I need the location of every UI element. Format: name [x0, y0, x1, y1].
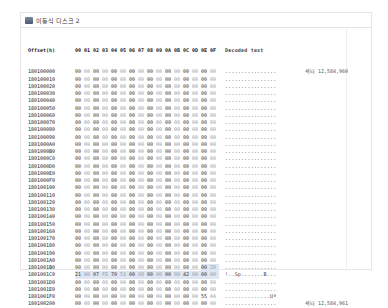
hex-byte[interactable]: 00 — [93, 141, 102, 148]
hex-byte[interactable]: 07 — [93, 271, 102, 278]
hex-byte[interactable]: 00 — [93, 300, 102, 307]
hex-byte[interactable]: 00 — [84, 221, 93, 228]
hex-byte[interactable]: 00 — [147, 148, 156, 155]
hex-byte[interactable]: 00 — [111, 264, 120, 271]
hex-byte[interactable]: 00 — [192, 300, 201, 307]
hex-byte[interactable]: 00 — [165, 83, 174, 90]
hex-byte[interactable]: 00 — [156, 112, 165, 119]
hex-byte[interactable]: 00 — [201, 126, 210, 133]
hex-byte[interactable]: 00 — [183, 155, 192, 162]
hex-byte[interactable]: 00 — [192, 257, 201, 264]
hex-byte[interactable]: 00 — [120, 134, 129, 141]
hex-byte[interactable]: 00 — [84, 271, 93, 278]
hex-row[interactable]: 1801001F0000000000000000000000000000055A… — [28, 293, 348, 300]
hex-byte[interactable]: 00 — [183, 250, 192, 257]
hex-byte[interactable]: 00 — [183, 242, 192, 249]
hex-byte[interactable]: 00 — [165, 221, 174, 228]
hex-byte[interactable]: 00 — [102, 184, 111, 191]
hex-byte[interactable]: 00 — [120, 300, 129, 307]
hex-byte[interactable]: 00 — [138, 300, 147, 307]
hex-byte[interactable]: 00 — [102, 206, 111, 213]
hex-byte[interactable]: 00 — [93, 199, 102, 206]
hex-byte[interactable]: 00 — [120, 293, 129, 300]
hex-row[interactable]: 1801000300000000000000000000000000000000… — [28, 90, 348, 97]
hex-byte[interactable]: 00 — [111, 184, 120, 191]
hex-byte[interactable]: 00 — [210, 76, 219, 83]
hex-byte[interactable]: 00 — [84, 199, 93, 206]
hex-byte[interactable]: 00 — [75, 141, 84, 148]
hex-byte[interactable]: 00 — [84, 90, 93, 97]
hex-byte[interactable]: 00 — [147, 155, 156, 162]
hex-byte[interactable]: 00 — [84, 206, 93, 213]
hex-byte[interactable]: 00 — [192, 213, 201, 220]
hex-byte[interactable]: 00 — [174, 257, 183, 264]
hex-byte[interactable]: 00 — [75, 228, 84, 235]
hex-byte[interactable]: 00 — [138, 68, 147, 75]
hex-byte[interactable]: 00 — [129, 134, 138, 141]
hex-byte[interactable]: 00 — [93, 112, 102, 119]
decoded-text[interactable]: ................ — [225, 199, 293, 206]
hex-byte[interactable]: 00 — [75, 184, 84, 191]
hex-byte[interactable]: 00 — [192, 119, 201, 126]
hex-byte[interactable]: 00 — [120, 242, 129, 249]
hex-byte[interactable]: 00 — [174, 148, 183, 155]
hex-row[interactable]: 1801001200000000000000000000000000000000… — [28, 199, 348, 206]
hex-byte[interactable]: 00 — [201, 300, 210, 307]
hex-byte[interactable]: 00 — [165, 119, 174, 126]
hex-byte[interactable]: 00 — [201, 242, 210, 249]
hex-row[interactable]: 1801001D00000000000000000000000000000000… — [28, 279, 348, 286]
decoded-text[interactable]: ................ — [225, 279, 293, 286]
hex-byte[interactable]: 00 — [192, 141, 201, 148]
hex-byte[interactable]: 00 — [174, 83, 183, 90]
hex-byte[interactable]: 00 — [120, 68, 129, 75]
hex-row[interactable]: 1801000E00000000000000000000000000000000… — [28, 170, 348, 177]
hex-byte[interactable]: 00 — [102, 228, 111, 235]
decoded-text[interactable]: ................ — [225, 213, 293, 220]
hex-byte[interactable]: 00 — [201, 235, 210, 242]
hex-byte[interactable]: 00 — [183, 83, 192, 90]
hex-byte[interactable]: 00 — [102, 264, 111, 271]
hex-byte[interactable]: 00 — [75, 68, 84, 75]
hex-byte[interactable]: 00 — [102, 76, 111, 83]
hex-byte[interactable]: 00 — [129, 119, 138, 126]
hex-byte[interactable]: 00 — [75, 221, 84, 228]
hex-byte[interactable]: 00 — [165, 155, 174, 162]
hex-byte[interactable]: 00 — [129, 90, 138, 97]
hex-row[interactable]: 1801001300000000000000000000000000000000… — [28, 206, 348, 213]
hex-byte[interactable]: 00 — [165, 271, 174, 278]
hex-byte[interactable]: 00 — [129, 141, 138, 148]
hex-byte[interactable]: 00 — [192, 68, 201, 75]
hex-byte[interactable]: 00 — [201, 286, 210, 293]
hex-byte[interactable]: 00 — [192, 155, 201, 162]
hex-byte[interactable]: 00 — [84, 170, 93, 177]
hex-byte[interactable]: 00 — [120, 264, 129, 271]
hex-byte[interactable]: 00 — [210, 141, 219, 148]
hex-byte[interactable]: 00 — [111, 300, 120, 307]
hex-byte[interactable]: 00 — [210, 134, 219, 141]
hex-byte[interactable]: 00 — [102, 213, 111, 220]
hex-byte[interactable]: 00 — [156, 206, 165, 213]
hex-row[interactable]: 1801001000000000000000000000000000000000… — [28, 184, 348, 191]
hex-byte[interactable]: 00 — [201, 105, 210, 112]
hex-byte[interactable]: 00 — [102, 97, 111, 104]
hex-byte[interactable]: 00 — [102, 250, 111, 257]
hex-byte[interactable]: 00 — [120, 141, 129, 148]
hex-byte[interactable]: 00 — [156, 279, 165, 286]
hex-byte[interactable]: 00 — [147, 163, 156, 170]
hex-byte[interactable]: 00 — [147, 68, 156, 75]
hex-byte[interactable]: 00 — [138, 279, 147, 286]
hex-byte[interactable]: 00 — [129, 148, 138, 155]
hex-byte[interactable]: 00 — [174, 119, 183, 126]
hex-byte[interactable]: 00 — [192, 199, 201, 206]
hex-byte[interactable]: 00 — [111, 279, 120, 286]
hex-byte[interactable]: 00 — [138, 250, 147, 257]
hex-byte[interactable]: 00 — [138, 155, 147, 162]
hex-byte[interactable]: 00 — [192, 105, 201, 112]
hex-byte[interactable]: 00 — [147, 83, 156, 90]
hex-byte[interactable]: 00 — [192, 286, 201, 293]
decoded-text[interactable]: ................ — [225, 250, 293, 257]
decoded-text[interactable]: ................ — [225, 221, 293, 228]
decoded-text[interactable]: ................ — [225, 192, 293, 199]
hex-byte[interactable]: 00 — [165, 112, 174, 119]
hex-byte[interactable]: 00 — [120, 199, 129, 206]
